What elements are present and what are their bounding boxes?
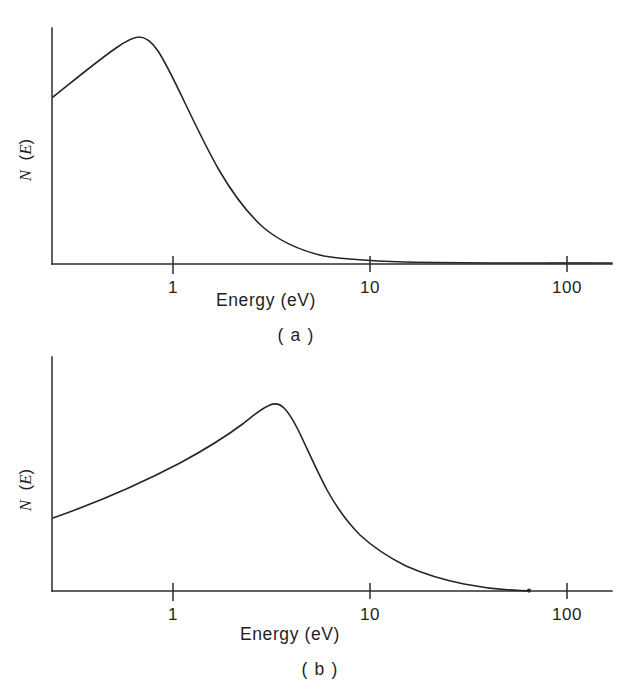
panel-a-curve [53,37,612,263]
panel-a-tick-label-100: 100 [552,278,582,297]
panel-a-y-axis-label: N (E) [16,139,35,183]
panel-a-caption: ( a ) [277,325,314,345]
panel-a-ylabel-arg: E [16,144,35,156]
panel-b-tick-label-100: 100 [552,605,582,624]
panel-b-ylabel-arg: E [16,474,35,486]
panel-a-tick-label-10: 10 [360,278,380,297]
panel-a-x-axis-title: Energy (eV) [216,290,316,310]
svg-text:N (E): N (E) [16,139,35,183]
panel-a-ylabel-symbol: N [16,168,35,182]
panel-a-tick-label-1: 1 [168,278,178,297]
panel-a-plot: 1 10 100 N (E) Energy (eV) ( a ) [0,0,636,350]
figure-container: 1 10 100 N (E) Energy (eV) ( a ) 1 10 [0,0,636,697]
panel-b-x-axis-title: Energy (eV) [240,624,340,644]
panel-b-curve-endpoint [527,589,531,593]
panel-b-caption: ( b ) [301,659,338,679]
panel-b-tick-label-10: 10 [360,605,380,624]
panel-b-plot: 1 10 100 N (E) Energy (eV) ( b ) [0,350,636,697]
svg-text:N (E): N (E) [16,469,35,513]
panel-b-curve [53,404,529,591]
panel-b-y-axis-label: N (E) [16,469,35,513]
panel-b-ylabel-symbol: N [16,498,35,512]
panel-b-tick-label-1: 1 [168,605,178,624]
